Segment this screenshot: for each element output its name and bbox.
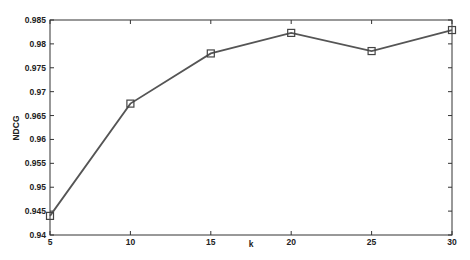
x-tick-label: 30 xyxy=(447,237,457,247)
y-axis-ticks: 0.940.9450.950.9550.960.9650.970.9750.98… xyxy=(25,15,452,240)
y-tick-label: 0.95 xyxy=(29,182,46,192)
y-tick-label: 0.96 xyxy=(29,134,46,144)
x-tick-label: 20 xyxy=(286,237,296,247)
x-axis-label: k xyxy=(249,239,254,249)
plot-frame xyxy=(50,20,452,235)
y-tick-label: 0.965 xyxy=(25,111,47,121)
y-tick-label: 0.975 xyxy=(25,63,47,73)
x-tick-label: 15 xyxy=(206,237,216,247)
ndcg-series-line xyxy=(50,30,452,216)
y-tick-label: 0.98 xyxy=(29,39,46,49)
ndcg-line-chart: 0.940.9450.950.9550.960.9650.970.9750.98… xyxy=(0,0,470,260)
x-tick-label: 5 xyxy=(48,237,53,247)
y-tick-label: 0.97 xyxy=(29,87,46,97)
series-markers xyxy=(47,27,456,220)
y-axis-label: NDCG xyxy=(11,115,21,140)
x-tick-label: 10 xyxy=(126,237,136,247)
y-tick-label: 0.955 xyxy=(25,158,47,168)
x-tick-label: 25 xyxy=(367,237,377,247)
y-tick-label: 0.985 xyxy=(25,15,47,25)
y-tick-label: 0.945 xyxy=(25,206,47,216)
y-tick-label: 0.94 xyxy=(29,230,46,240)
